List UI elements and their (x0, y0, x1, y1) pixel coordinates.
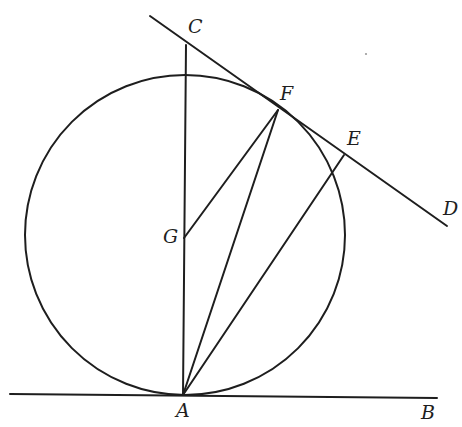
point-label-f: F (279, 82, 294, 104)
print-speck (365, 53, 367, 55)
diagram-canvas: ABCDEFG (0, 0, 462, 427)
point-label-c: C (188, 15, 203, 37)
geometry-diagram: ABCDEFG (0, 0, 462, 427)
line-AC (183, 45, 186, 395)
tangent-line-CD (150, 16, 447, 226)
point-label-d: D (442, 197, 458, 219)
segments-group (10, 16, 447, 398)
point-label-b: B (420, 401, 435, 423)
line-AE (183, 155, 344, 395)
tangent-line-AB (10, 394, 437, 398)
point-label-e: E (346, 127, 361, 149)
point-label-g: G (163, 225, 178, 247)
chord-AF (183, 110, 278, 395)
point-label-a: A (174, 399, 190, 421)
radius-GF (184, 110, 278, 238)
